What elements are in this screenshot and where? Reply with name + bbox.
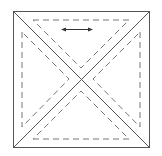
seam-triangle-left bbox=[22, 32, 69, 127]
seam-triangle-bottom bbox=[33, 91, 129, 139]
quilt-block-diagram bbox=[0, 0, 162, 156]
grain-direction-arrow-icon bbox=[61, 28, 93, 32]
seam-triangle-top bbox=[33, 20, 129, 68]
seam-triangle-right bbox=[93, 32, 140, 127]
